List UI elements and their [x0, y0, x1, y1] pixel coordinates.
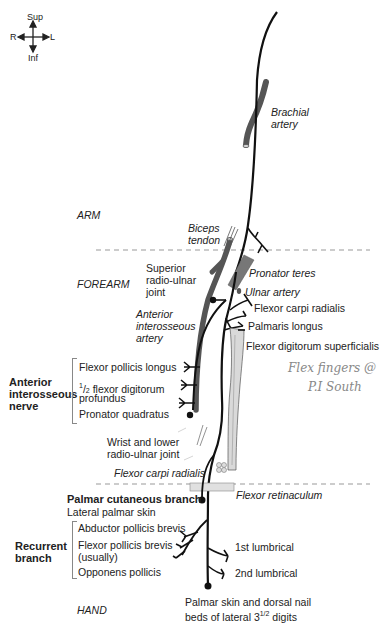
superior-ru-joint-label-2: radio-ulnar — [146, 274, 196, 286]
lumbrical-2-label: 2nd lumbrical — [235, 567, 297, 579]
recurrent-title-1: Recurrent — [15, 540, 67, 552]
digital-label-2: beds of lateral 31/2 digits — [185, 608, 297, 623]
median-nerve-diagram — [0, 0, 380, 629]
compass-inf-label: Inf — [28, 52, 38, 64]
superior-ru-joint-label-3: joint — [146, 286, 165, 298]
wrist-joint-node — [187, 412, 193, 418]
ain-branch-fdp-2: profundus — [79, 392, 126, 404]
ulnar-artery-marker — [237, 288, 241, 294]
wrist-joint-label-2: radio-ulnar joint — [107, 448, 179, 460]
superior-ru-joint-label-1: Superior — [146, 262, 186, 274]
ai-artery-label-1: Anterior — [136, 308, 173, 320]
palmaris-longus-label: Palmaris longus — [248, 320, 323, 332]
ain-branch-pq: Pronator quadratus — [79, 408, 169, 420]
ulnar-artery-label: Ulnar artery — [245, 286, 300, 298]
ai-artery-label-3: artery — [136, 332, 163, 344]
lumbrical-1-label: 1st lumbrical — [235, 541, 294, 553]
brachial-artery-label-1: Brachial — [271, 106, 309, 118]
palmar-cutaneous-title: Palmar cutaneous branch — [67, 493, 202, 505]
region-hand-label: HAND — [77, 604, 107, 616]
compass-right-label: R — [10, 31, 17, 43]
ain-title-2: interosseous — [9, 388, 77, 400]
brachial-artery-label-2: artery — [271, 118, 298, 130]
ain-branch-fpl: Flexor pollicis longus — [79, 361, 176, 373]
ain-title-1: Anterior — [9, 376, 52, 388]
recurrent-branch-apb: Abductor pollicis brevis — [78, 522, 185, 534]
pronator-teres-branch — [248, 228, 268, 253]
palmar-cutaneous-target: Lateral palmar skin — [67, 506, 156, 518]
compass-icon — [18, 21, 49, 52]
recurrent-branch-fpb-2: (usually) — [78, 551, 118, 563]
fds-label: Flexor digitorum superficialis — [246, 340, 379, 352]
compass-sup-label: Sup — [27, 11, 43, 23]
digital-label-1: Palmar skin and dorsal nail — [185, 596, 311, 608]
ai-artery-label-2: interosseous — [136, 320, 196, 332]
fds-muscle-band — [228, 328, 244, 470]
fcr-tendon — [197, 425, 207, 446]
biceps-tendon-label-2: tendon — [188, 234, 220, 246]
ain-title-3: nerve — [9, 400, 38, 412]
compass-left-label: L — [50, 31, 55, 43]
handwritten-note-line-2: P.I South — [308, 381, 362, 393]
lumbrical-branches — [208, 548, 228, 579]
ain-bracket — [72, 358, 77, 424]
handwritten-note-line-1: Flex fingers @ — [288, 362, 376, 374]
fcr-label: Flexor carpi radialis — [254, 302, 345, 314]
fds-tendon-ends — [217, 463, 227, 473]
superior-ru-joint-node — [210, 297, 216, 303]
biceps-tendon-label-1: Biceps — [188, 222, 220, 234]
pronator-teres-label: Pronator teres — [249, 267, 316, 279]
flexor-retinaculum-label: Flexor retinaculum — [236, 489, 322, 501]
region-arm-label: ARM — [77, 209, 100, 221]
median-nerve-arm — [236, 12, 277, 272]
wrist-joint-label-1: Wrist and lower — [107, 436, 179, 448]
region-forearm-label: FOREARM — [77, 278, 130, 290]
recurrent-title-2: branch — [15, 552, 52, 564]
recurrent-branch-fpb-1: Flexor pollicis brevis — [78, 539, 173, 551]
fcr-tendon-label: Flexor carpi radialis — [114, 467, 205, 479]
digital-branch-node — [205, 583, 212, 590]
flexor-retinaculum-band — [190, 483, 234, 491]
recurrent-branch-op: Opponens pollicis — [78, 566, 161, 578]
recurrent-bracket — [72, 521, 77, 579]
